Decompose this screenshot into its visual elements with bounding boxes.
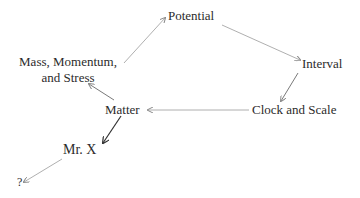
node-interval: Interval [302, 57, 342, 71]
edge-potential-to-interval [222, 25, 300, 60]
edge-mrx-to-unknown [24, 159, 62, 182]
node-mass-momentum-stress: Mass, Momentum, and Stress [12, 55, 124, 85]
node-clock-and-scale: Clock and Scale [252, 103, 336, 117]
edge-interval-to-clock [281, 73, 298, 101]
node-unknown: ? [17, 175, 22, 189]
node-mass-line1: Mass, Momentum, [12, 55, 124, 69]
node-mass-line2: and Stress [12, 71, 124, 85]
edges-layer [0, 0, 360, 198]
edge-mass-to-potential [124, 18, 165, 63]
diagram-canvas: Potential Interval Clock and Scale Matte… [0, 0, 360, 198]
node-mr-x: Mr. X [63, 143, 96, 157]
edge-matter-to-mass [89, 84, 114, 100]
node-matter: Matter [105, 103, 140, 117]
node-potential: Potential [168, 9, 214, 23]
edge-matter-to-mrx [103, 116, 121, 143]
